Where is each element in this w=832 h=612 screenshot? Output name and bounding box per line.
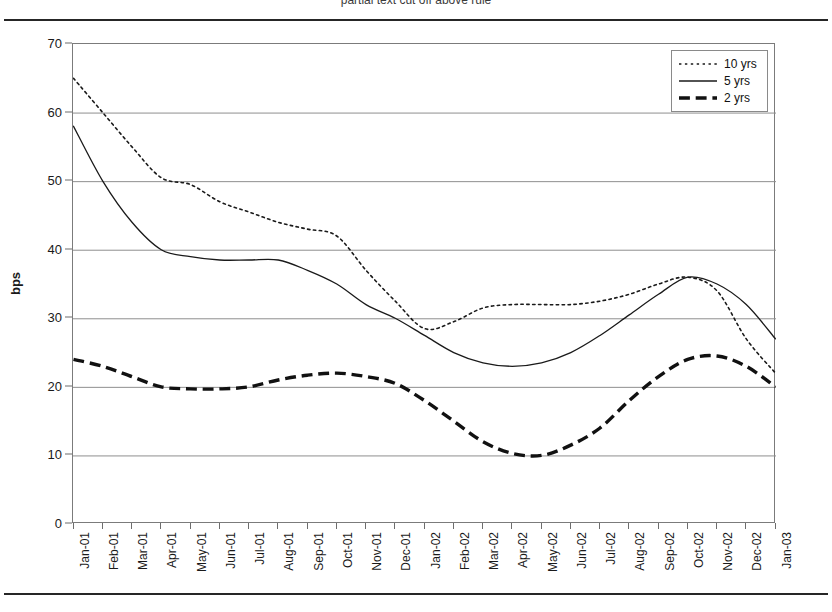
series-line-10-yrs <box>74 78 776 373</box>
x-tick-mark <box>102 523 103 529</box>
figure-root: partial text cut off above rule bps 0102… <box>0 0 832 612</box>
plot-svg <box>73 44 776 524</box>
x-tick-mark <box>687 523 688 529</box>
x-tick-mark <box>248 523 249 529</box>
x-tick-label: Nov-02 <box>721 532 735 602</box>
y-tick-mark <box>65 180 72 181</box>
x-tick-mark <box>424 523 425 529</box>
x-tick-label: Sep-01 <box>312 532 326 602</box>
y-tick-mark <box>65 43 72 44</box>
y-tick-label: 50 <box>48 173 62 188</box>
y-tick-label: 60 <box>48 104 62 119</box>
x-tick-label: May-01 <box>195 532 209 602</box>
x-tick-label: Oct-02 <box>692 532 706 602</box>
x-tick-label: Dec-02 <box>750 532 764 602</box>
legend-swatch-dashed-icon <box>678 92 718 104</box>
x-tick-mark <box>365 523 366 529</box>
x-tick-label: Jun-02 <box>575 532 589 602</box>
x-tick-mark <box>716 523 717 529</box>
x-tick-mark <box>160 523 161 529</box>
x-tick-mark <box>745 523 746 529</box>
x-tick-mark <box>541 523 542 529</box>
x-tick-mark <box>277 523 278 529</box>
y-tick-label: 0 <box>55 516 62 531</box>
series-line-2-yrs <box>74 356 776 456</box>
x-tick-label: Feb-01 <box>107 532 121 602</box>
plot-area <box>72 43 775 523</box>
y-tick-label: 40 <box>48 241 62 256</box>
y-tick-mark <box>65 317 72 318</box>
x-tick-mark <box>219 523 220 529</box>
x-axis: Jan-01Feb-01Mar-01Apr-01May-01Jun-01Jul-… <box>72 523 775 593</box>
legend-label: 2 yrs <box>724 91 750 105</box>
y-tick-label: 30 <box>48 310 62 325</box>
x-tick-label: Aug-02 <box>633 532 647 602</box>
caption-fragment: partial text cut off above rule <box>0 0 832 11</box>
x-tick-label: Sep-02 <box>663 532 677 602</box>
x-tick-label: Dec-01 <box>399 532 413 602</box>
y-tick-label: 20 <box>48 378 62 393</box>
page-rule-top <box>4 19 828 21</box>
x-tick-label: Jan-02 <box>429 532 443 602</box>
x-tick-label: Jan-03 <box>780 532 794 602</box>
x-tick-mark <box>570 523 571 529</box>
x-tick-mark <box>599 523 600 529</box>
x-tick-mark <box>775 523 776 529</box>
legend-item: 5 yrs <box>678 72 761 89</box>
x-tick-label: Jul-02 <box>604 532 618 602</box>
x-tick-label: May-02 <box>546 532 560 602</box>
legend-swatch-solid-icon <box>678 75 718 87</box>
x-tick-mark <box>336 523 337 529</box>
legend-item: 2 yrs <box>678 89 761 106</box>
y-tick-mark <box>65 385 72 386</box>
x-tick-mark <box>511 523 512 529</box>
x-tick-mark <box>307 523 308 529</box>
x-tick-mark <box>658 523 659 529</box>
gridlines <box>73 113 776 456</box>
x-tick-label: Feb-02 <box>458 532 472 602</box>
x-tick-mark <box>190 523 191 529</box>
x-tick-label: Mar-02 <box>487 532 501 602</box>
legend-swatch-dotted-icon <box>678 58 718 70</box>
legend-label: 10 yrs <box>724 57 757 71</box>
x-tick-label: Apr-01 <box>165 532 179 602</box>
x-tick-label: Jan-01 <box>78 532 92 602</box>
x-tick-mark <box>628 523 629 529</box>
x-tick-mark <box>482 523 483 529</box>
x-tick-mark <box>453 523 454 529</box>
x-tick-label: Jul-01 <box>253 532 267 602</box>
y-tick-label: 10 <box>48 447 62 462</box>
x-tick-label: Mar-01 <box>136 532 150 602</box>
y-tick-mark <box>65 523 72 524</box>
series-line-5-yrs <box>74 126 776 366</box>
y-tick-label: 70 <box>48 36 62 51</box>
x-tick-mark <box>394 523 395 529</box>
x-tick-label: Jun-01 <box>224 532 238 602</box>
y-tick-mark <box>65 248 72 249</box>
x-tick-label: Nov-01 <box>370 532 384 602</box>
x-tick-mark <box>73 523 74 529</box>
y-axis: 010203040506070 <box>0 43 72 523</box>
y-tick-mark <box>65 454 72 455</box>
x-tick-label: Aug-01 <box>282 532 296 602</box>
series-paths <box>74 78 776 456</box>
x-tick-label: Oct-01 <box>341 532 355 602</box>
x-tick-label: Apr-02 <box>516 532 530 602</box>
chart-legend: 10 yrs5 yrs2 yrs <box>671 50 768 112</box>
legend-item: 10 yrs <box>678 55 761 72</box>
x-tick-mark <box>131 523 132 529</box>
legend-label: 5 yrs <box>724 74 750 88</box>
y-tick-mark <box>65 111 72 112</box>
